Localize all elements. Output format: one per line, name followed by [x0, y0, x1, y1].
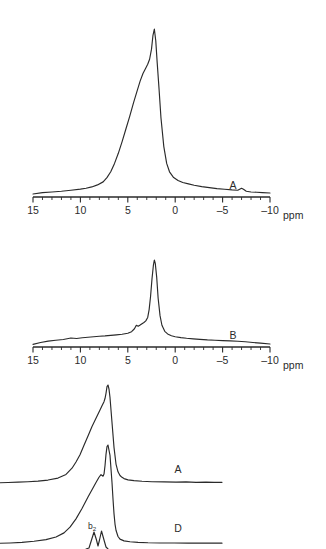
spectrum-a-unit-label: ppm	[283, 209, 304, 221]
axis-tick-label: –10	[261, 354, 279, 366]
overlay-trace-a-label: A	[174, 463, 181, 475]
axis-tick-label: –10	[261, 204, 279, 216]
spectrum-b-unit-label: ppm	[283, 359, 304, 371]
axis-tick-label: 5	[125, 204, 131, 216]
spectrum-a-plot: 151050–5–10 A ppm	[0, 0, 326, 228]
nmr-spectra-figure: 151050–5–10 A ppm 151050–5–10 B ppm A D …	[0, 0, 326, 549]
axis-tick-label: 0	[172, 204, 178, 216]
overlay-b2-doublet	[86, 531, 108, 549]
spectrum-b-trace-label: B	[229, 329, 236, 341]
overlay-trace-d-label: D	[174, 522, 182, 534]
axis-tick-label: –5	[217, 204, 229, 216]
spectrum-b-axis: 151050–5–10	[27, 347, 279, 366]
b2-peak-annotation: b2	[88, 521, 97, 532]
axis-tick-label: –5	[217, 354, 229, 366]
axis-tick-label: 15	[27, 204, 39, 216]
spectrum-a-trace	[33, 29, 270, 194]
axis-tick-label: 15	[27, 354, 39, 366]
panel-spectrum-a: 151050–5–10 A ppm	[0, 0, 326, 228]
axis-tick-label: 0	[172, 354, 178, 366]
axis-tick-label: 10	[75, 354, 87, 366]
spectra-overlay-plot: A D b2	[0, 380, 326, 549]
panel-spectra-overlay: A D b2	[0, 380, 326, 549]
axis-tick-label: 5	[125, 354, 131, 366]
panel-spectrum-b: 151050–5–10 B ppm	[0, 228, 326, 380]
overlay-trace-d	[0, 445, 222, 543]
spectrum-a-trace-label: A	[229, 179, 236, 191]
spectrum-a-axis: 151050–5–10	[27, 197, 279, 216]
spectrum-b-plot: 151050–5–10 B ppm	[0, 228, 326, 380]
axis-tick-label: 10	[75, 204, 87, 216]
